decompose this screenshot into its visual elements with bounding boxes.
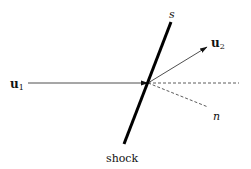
- s-label: s: [169, 8, 175, 21]
- u1-label-sub: 1: [19, 83, 24, 92]
- u2-label-sub: 2: [220, 42, 225, 51]
- normal-direction-line: [148, 83, 208, 107]
- u2-label-base: u: [211, 36, 220, 50]
- u2-velocity-arrow: [148, 47, 207, 83]
- u2-label: u2: [211, 36, 225, 51]
- u1-label: u1: [10, 77, 24, 92]
- shock-label: shock: [106, 152, 139, 165]
- oblique-shock-diagram: s u1 u2 n shock: [0, 0, 251, 169]
- u1-label-base: u: [10, 77, 19, 91]
- n-label: n: [213, 110, 220, 123]
